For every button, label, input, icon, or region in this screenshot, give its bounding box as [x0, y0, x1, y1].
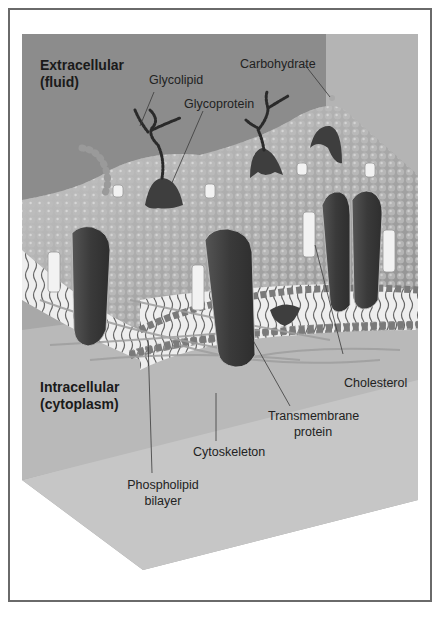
- extracellular-label-line2: (fluid): [40, 74, 124, 91]
- glycolipid-label: Glycolipid: [149, 72, 203, 88]
- cholesterol-label: Cholesterol: [344, 375, 407, 391]
- cell-membrane-diagram: [0, 0, 441, 617]
- intracellular-label-line2: (cytoplasm): [40, 396, 119, 413]
- extracellular-label-line1: Extracellular: [40, 57, 124, 74]
- phospholipid-label-line1: Phospholipid: [125, 477, 201, 493]
- transmembrane-protein-label: Transmembrane protein: [268, 408, 358, 440]
- transmembrane-label-line1: Transmembrane: [268, 408, 358, 424]
- extracellular-label: Extracellular (fluid): [40, 57, 124, 91]
- carbohydrate-label: Carbohydrate: [240, 56, 316, 72]
- intracellular-label-line1: Intracellular: [40, 379, 119, 396]
- phospholipid-bilayer-label: Phospholipid bilayer: [125, 477, 201, 509]
- intracellular-label: Intracellular (cytoplasm): [40, 379, 119, 413]
- cytoskeleton-label: Cytoskeleton: [193, 444, 265, 460]
- carbohydrate-tip: [329, 95, 335, 101]
- transmembrane-label-line2: protein: [268, 424, 358, 440]
- glycoprotein-label: Glycoprotein: [184, 96, 254, 112]
- phospholipid-label-line2: bilayer: [125, 493, 201, 509]
